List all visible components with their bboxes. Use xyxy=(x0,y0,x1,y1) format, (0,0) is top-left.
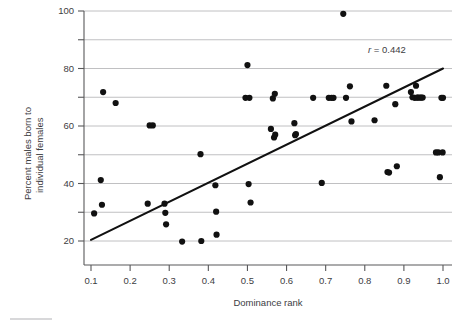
data-point xyxy=(145,201,151,207)
x-tick-label-0.6: 0.6 xyxy=(280,275,293,286)
data-point xyxy=(246,95,252,101)
data-point xyxy=(420,94,426,100)
y-tick-label-80: 80 xyxy=(63,63,74,74)
data-point xyxy=(386,169,392,175)
data-point xyxy=(413,83,419,89)
data-point xyxy=(272,132,278,138)
y-tick-label-60: 60 xyxy=(63,120,74,131)
scatter-plot-figure: 20406080100 0.10.20.30.40.50.60.70.80.91… xyxy=(0,0,468,328)
data-point xyxy=(272,91,278,97)
y-axis-title-line2: individual females xyxy=(34,117,45,193)
data-point xyxy=(244,62,250,68)
regression-line xyxy=(91,69,443,240)
x-tick-label-0.9: 0.9 xyxy=(397,275,410,286)
data-point xyxy=(440,95,446,101)
data-point xyxy=(100,89,106,95)
y-axis-tick-labels: 20406080100 xyxy=(58,5,74,246)
y-axis-ticks xyxy=(78,11,84,241)
data-point xyxy=(163,221,169,227)
x-tick-label-0.7: 0.7 xyxy=(319,275,332,286)
data-point xyxy=(113,100,119,106)
data-point xyxy=(310,95,316,101)
data-point xyxy=(293,131,299,137)
data-point xyxy=(197,151,203,157)
data-point xyxy=(198,238,204,244)
data-point xyxy=(319,180,325,186)
x-tick-label-0.1: 0.1 xyxy=(84,275,97,286)
data-point xyxy=(268,126,274,132)
footer-rule-decoration xyxy=(10,318,52,320)
x-tick-label-0.4: 0.4 xyxy=(202,275,215,286)
data-point xyxy=(161,201,167,207)
data-point xyxy=(392,101,398,107)
data-point xyxy=(91,210,97,216)
y-axis-title-line1: Percent males born to xyxy=(22,107,33,200)
data-point xyxy=(162,210,168,216)
data-point xyxy=(150,122,156,128)
y-tick-label-40: 40 xyxy=(63,178,74,189)
correlation-annotation: r = 0.442 xyxy=(368,44,406,55)
data-point xyxy=(99,202,105,208)
x-axis-tick-labels: 0.10.20.30.40.50.60.70.80.91.0 xyxy=(84,275,449,286)
y-tick-label-20: 20 xyxy=(63,235,74,246)
data-point xyxy=(247,199,253,205)
x-tick-label-0.3: 0.3 xyxy=(163,275,176,286)
data-point xyxy=(440,149,446,155)
data-point xyxy=(213,209,219,215)
data-point xyxy=(179,238,185,244)
x-tick-label-0.8: 0.8 xyxy=(358,275,371,286)
data-point xyxy=(343,95,349,101)
x-tick-label-0.2: 0.2 xyxy=(124,275,137,286)
data-point xyxy=(330,95,336,101)
data-point xyxy=(291,120,297,126)
data-point xyxy=(213,232,219,238)
data-point xyxy=(348,118,354,124)
plot-canvas: 20406080100 0.10.20.30.40.50.60.70.80.91… xyxy=(0,0,468,328)
data-point xyxy=(340,11,346,17)
data-point xyxy=(98,177,104,183)
x-tick-label-0.5: 0.5 xyxy=(241,275,254,286)
x-axis-ticks xyxy=(91,265,443,271)
y-tick-label-100: 100 xyxy=(58,5,74,16)
data-point xyxy=(212,182,218,188)
data-point xyxy=(246,181,252,187)
data-point xyxy=(371,117,377,123)
data-point xyxy=(383,83,389,89)
data-point xyxy=(394,163,400,169)
x-axis-title: Dominance rank xyxy=(233,297,302,308)
data-point xyxy=(347,83,353,89)
y-axis-title: Percent males born to individual females xyxy=(22,107,45,200)
x-tick-label-1.0: 1.0 xyxy=(436,275,449,286)
data-point xyxy=(437,174,443,180)
